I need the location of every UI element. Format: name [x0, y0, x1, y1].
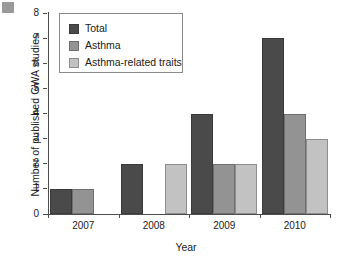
y-axis-tick-label: 1: [24, 182, 39, 193]
bar-2010-asthma-related-traits: [306, 139, 328, 214]
bar-2007-asthma: [72, 189, 94, 214]
legend-swatch-icon: [69, 41, 79, 51]
x-axis-tick-label: 2009: [194, 220, 254, 231]
legend-item-asthma: Asthma: [69, 39, 121, 52]
y-axis-tick-label: 4: [24, 107, 39, 118]
y-axis-tick-mark: [43, 188, 47, 189]
x-axis-tick-label: 2008: [124, 220, 184, 231]
bar-chart-figure: Number of published GWA studies Year 012…: [0, 0, 339, 259]
y-axis-tick-mark: [43, 113, 47, 114]
y-axis-tick-label: 5: [24, 82, 39, 93]
x-axis-tick-mark: [119, 214, 120, 218]
y-axis-tick-mark: [43, 88, 47, 89]
bar-2010-total: [262, 38, 284, 214]
y-axis-tick-label: 0: [24, 208, 39, 219]
x-axis-tick-mark: [330, 214, 331, 218]
y-axis-tick-mark: [43, 63, 47, 64]
x-axis-title: Year: [46, 241, 326, 253]
y-axis-tick-label: 6: [24, 57, 39, 68]
bar-2008-asthma-related-traits: [165, 164, 187, 214]
bar-2007-total: [50, 189, 72, 214]
x-axis-tick-mark: [189, 214, 190, 218]
x-axis-tick-mark: [48, 214, 49, 218]
bar-2009-total: [191, 114, 213, 215]
legend-item-asthma-related-traits: Asthma-related traits: [69, 56, 182, 69]
bar-2009-asthma-related-traits: [235, 164, 257, 214]
y-axis-tick-mark: [43, 138, 47, 139]
y-axis-tick-label: 7: [24, 32, 39, 43]
legend-item-total: Total: [69, 22, 107, 35]
y-axis-tick-label: 2: [24, 157, 39, 168]
scan-artifact-mark: [2, 2, 14, 13]
y-axis-tick-mark: [43, 13, 47, 14]
y-axis-tick-label: 3: [24, 132, 39, 143]
legend-swatch-icon: [69, 58, 79, 68]
y-axis-tick-mark: [43, 214, 47, 215]
y-axis-tick-mark: [43, 163, 47, 164]
bar-2008-total: [121, 164, 143, 214]
x-axis-tick-label: 2007: [53, 220, 113, 231]
y-axis-tick-label: 8: [24, 7, 39, 18]
chart-legend: TotalAsthmaAsthma-related traits: [59, 13, 183, 73]
legend-item-label: Asthma-related traits: [85, 57, 182, 68]
legend-swatch-icon: [69, 24, 79, 34]
y-axis-tick-mark: [43, 38, 47, 39]
legend-item-label: Total: [85, 23, 107, 34]
bar-2009-asthma: [213, 164, 235, 214]
legend-item-label: Asthma: [85, 40, 121, 51]
x-axis-tick-label: 2010: [265, 220, 325, 231]
x-axis-tick-mark: [260, 214, 261, 218]
bar-2010-asthma: [284, 114, 306, 215]
